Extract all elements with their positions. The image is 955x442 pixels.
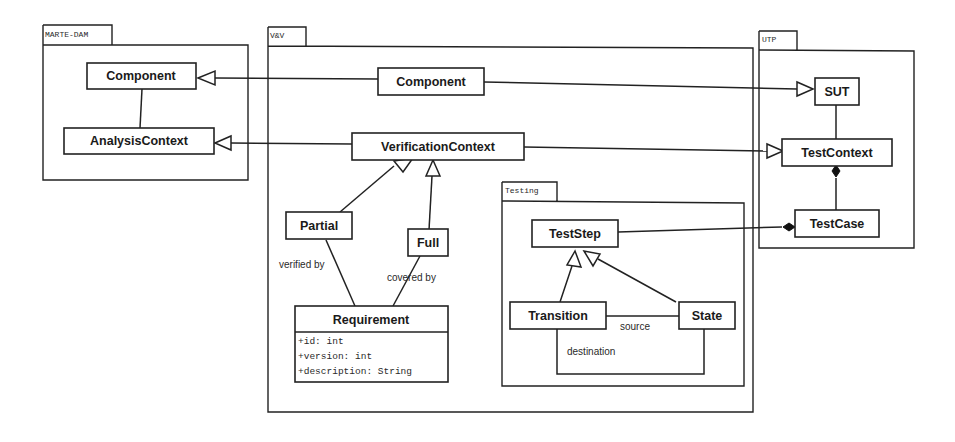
generalization-arrow-analysis-context xyxy=(215,136,231,150)
package-marte-dam-frame xyxy=(43,25,248,180)
generalization-arrow-sut xyxy=(797,82,813,96)
label-source: source xyxy=(620,321,650,332)
class-state[interactable]: State xyxy=(679,302,735,329)
requirement-attribute: +description: String xyxy=(298,366,412,377)
class-requirement[interactable]: Requirement +id: int +version: int +desc… xyxy=(295,306,448,382)
transition-to-test-step-line xyxy=(560,266,572,302)
class-marte-component-name: Component xyxy=(106,69,176,83)
vv-component-to-marte-component-line xyxy=(215,78,378,79)
vc-to-analysis-context-line xyxy=(231,143,352,144)
package-testing: Testing xyxy=(502,182,744,386)
class-partial-name: Partial xyxy=(300,219,338,233)
class-test-case-name: TestCase xyxy=(810,217,865,231)
full-to-vc-line xyxy=(429,176,432,230)
class-test-step-name: TestStep xyxy=(549,227,601,241)
class-partial[interactable]: Partial xyxy=(286,212,352,239)
requirement-attribute: +id: int xyxy=(298,336,344,347)
class-sut-name: SUT xyxy=(825,85,850,99)
class-analysis-context[interactable]: AnalysisContext xyxy=(64,128,214,154)
uml-class-diagram: MARTE-DAM V&V UTP Testing xyxy=(0,0,955,442)
class-analysis-context-name: AnalysisContext xyxy=(90,134,189,148)
class-test-context[interactable]: TestContext xyxy=(782,139,892,166)
generalization-arrow-state xyxy=(584,251,600,266)
generalization-arrow-test-context xyxy=(767,144,783,158)
partial-to-vc-line xyxy=(340,166,394,212)
label-covered-by: covered by xyxy=(387,272,436,283)
class-marte-component[interactable]: Component xyxy=(87,63,196,89)
class-state-name: State xyxy=(692,309,723,323)
class-test-case[interactable]: TestCase xyxy=(795,210,879,237)
class-test-context-name: TestContext xyxy=(801,146,873,160)
generalization-arrow-transition xyxy=(567,251,581,267)
class-test-step[interactable]: TestStep xyxy=(532,220,618,247)
vv-component-to-sut-line xyxy=(484,82,797,89)
class-sut[interactable]: SUT xyxy=(815,78,859,105)
test-step-test-case-link xyxy=(618,227,782,232)
package-marte-dam-label: MARTE-DAM xyxy=(45,30,88,39)
label-verified-by: verified by xyxy=(279,259,325,270)
generalization-arrow-marte-component xyxy=(198,71,215,85)
class-transition-name: Transition xyxy=(528,309,588,323)
class-full-name: Full xyxy=(417,236,439,250)
class-vv-component-name: Component xyxy=(396,75,466,89)
state-to-test-step-line xyxy=(598,259,676,302)
package-testing-label: Testing xyxy=(505,186,539,195)
class-vv-component[interactable]: Component xyxy=(378,68,484,95)
composition-diamond-test-case xyxy=(783,223,795,231)
generalization-arrow-full xyxy=(426,160,440,176)
package-testing-frame xyxy=(502,182,744,386)
package-vv-label: V&V xyxy=(270,31,285,40)
partial-requirement-link xyxy=(326,240,355,306)
class-verification-context-name: VerificationContext xyxy=(381,140,496,154)
class-transition[interactable]: Transition xyxy=(510,302,606,329)
requirement-attribute: +version: int xyxy=(298,351,372,362)
label-destination: destination xyxy=(567,346,615,357)
class-full[interactable]: Full xyxy=(408,229,448,256)
class-verification-context[interactable]: VerificationContext xyxy=(352,133,524,160)
package-marte-dam: MARTE-DAM xyxy=(43,25,248,180)
class-requirement-name: Requirement xyxy=(333,313,410,327)
package-utp-label: UTP xyxy=(762,35,777,44)
vc-to-test-context-line xyxy=(524,147,767,151)
marte-component-analysis-link xyxy=(140,89,142,128)
composition-diamond-test-context xyxy=(832,165,840,177)
